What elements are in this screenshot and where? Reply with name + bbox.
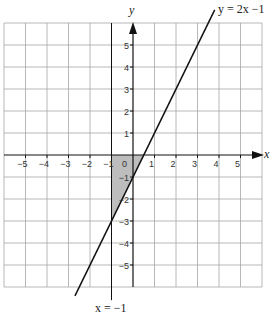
- y-tick-label: 1: [124, 129, 129, 139]
- x-tick-label: 3: [192, 159, 197, 169]
- x-tick-label: 1: [149, 159, 154, 169]
- x-tick-label: −3: [60, 159, 70, 169]
- origin-label: 0: [122, 159, 127, 169]
- y-tick-label: 4: [124, 63, 129, 73]
- x-tick-label: −1: [103, 159, 113, 169]
- coordinate-graph: −5−4−3−2−11234554321−1−2−3−4−5 y x y = 2…: [0, 0, 271, 316]
- x-axis-label: x: [263, 147, 270, 161]
- y-tick-label: −2: [119, 195, 129, 205]
- x-tick-label: 5: [235, 159, 240, 169]
- axes: [4, 22, 264, 287]
- x-tick-label: 2: [170, 159, 175, 169]
- y-tick-label: −3: [119, 217, 129, 227]
- x-tick-label: −5: [17, 159, 27, 169]
- y-axis-label: y: [128, 3, 135, 17]
- y-tick-label: 3: [124, 85, 129, 95]
- line-y-equals-2x-minus-1: [75, 10, 215, 296]
- y-tick-label: 5: [124, 41, 129, 51]
- y-tick-label: −4: [119, 239, 129, 249]
- y-tick-label: 2: [124, 107, 129, 117]
- vertical-line-label: x = −1: [95, 301, 127, 315]
- x-tick-label: 4: [213, 159, 218, 169]
- y-tick-label: −5: [119, 261, 129, 271]
- line-equation-label: y = 2x −1: [218, 2, 265, 16]
- y-axis-arrow-icon: [129, 22, 137, 34]
- x-tick-label: −4: [39, 159, 49, 169]
- x-tick-label: −2: [82, 159, 92, 169]
- y-tick-label: −1: [119, 173, 129, 183]
